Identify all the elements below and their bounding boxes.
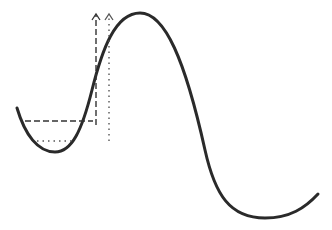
potential-curve xyxy=(17,13,318,218)
energy-diagram xyxy=(0,0,332,230)
diagram-svg xyxy=(0,0,332,230)
